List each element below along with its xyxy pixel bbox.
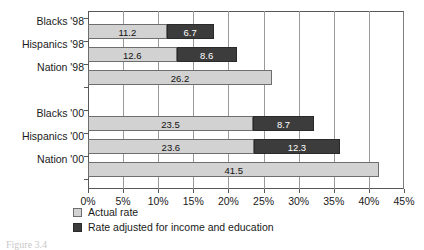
x-tick-mark-0 <box>88 189 89 193</box>
y-tick-5 <box>84 133 88 134</box>
bar-segment-actual[interactable]: 41.5 <box>88 162 379 177</box>
bar-segment-adjusted[interactable]: 8.7 <box>253 116 314 131</box>
category-label-nation-98: Nation '98 <box>0 61 84 74</box>
bar-segment-actual[interactable]: 26.2 <box>88 70 272 85</box>
plot-area: 11.2 6.7 12.6 8.6 26.2 23.5 8.7 23.6 12.… <box>88 11 404 189</box>
legend-label-adjusted-rate: Rate adjusted for income and education <box>88 222 274 233</box>
x-tick-label-40: 40% <box>349 195 389 207</box>
x-tick-label-35: 35% <box>314 195 354 207</box>
bar-segment-adjusted[interactable]: 12.3 <box>254 139 340 154</box>
x-tick-mark-20 <box>228 189 229 193</box>
x-tick-mark-45 <box>404 189 405 193</box>
y-tick-1 <box>84 41 88 42</box>
category-label-hispanics-98: Hispanics '98 <box>0 38 84 51</box>
category-label-blacks-00: Blacks '00 <box>0 107 84 120</box>
x-tick-mark-15 <box>193 189 194 193</box>
x-tick-mark-30 <box>299 189 300 193</box>
figure-caption: Figure 3.4 <box>6 239 47 250</box>
y-tick-2 <box>84 64 88 65</box>
category-label-hispanics-00: Hispanics '00 <box>0 130 84 143</box>
legend-swatch-adjusted-rate-icon <box>73 223 82 232</box>
y-tick-4 <box>84 110 88 111</box>
legend-label-actual-rate: Actual rate <box>88 207 138 218</box>
x-tick-label-30: 30% <box>279 195 319 207</box>
y-tick-3 <box>84 87 88 88</box>
figure-3-4: Blacks '98 Hispanics '98 Nation '98 Blac… <box>0 0 424 250</box>
bar-segment-actual[interactable]: 12.6 <box>88 47 177 62</box>
bar-segment-adjusted[interactable]: 6.7 <box>167 24 214 39</box>
legend-item-adjusted-rate[interactable]: Rate adjusted for income and education <box>73 221 274 234</box>
bar-segment-adjusted[interactable]: 8.6 <box>177 47 237 62</box>
bar-segment-actual[interactable]: 23.5 <box>88 116 253 131</box>
x-tick-mark-10 <box>158 189 159 193</box>
bar-segment-actual[interactable]: 11.2 <box>88 24 167 39</box>
y-tick-0 <box>84 18 88 19</box>
category-label-blacks-98: Blacks '98 <box>0 15 84 28</box>
legend-item-actual-rate[interactable]: Actual rate <box>73 206 274 219</box>
x-tick-mark-5 <box>123 189 124 193</box>
x-tick-mark-40 <box>369 189 370 193</box>
category-label-nation-00: Nation '00 <box>0 153 84 166</box>
x-tick-mark-35 <box>334 189 335 193</box>
bar-segment-actual[interactable]: 23.6 <box>88 139 254 154</box>
x-tick-mark-25 <box>264 189 265 193</box>
y-tick-7 <box>84 179 88 180</box>
y-tick-6 <box>84 156 88 157</box>
x-tick-label-45: 45% <box>384 195 424 207</box>
legend: Actual rate Rate adjusted for income and… <box>73 206 274 236</box>
legend-swatch-actual-rate-icon <box>73 208 82 217</box>
